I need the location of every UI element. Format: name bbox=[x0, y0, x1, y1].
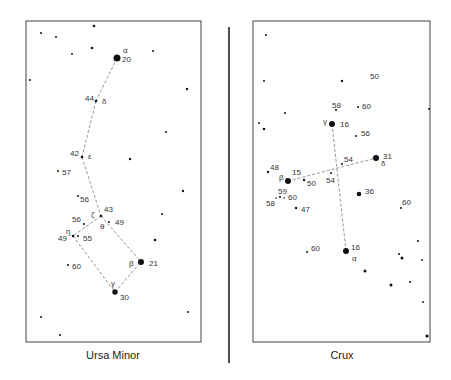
star-marker bbox=[129, 158, 131, 160]
star-magnitude-label: 49 bbox=[115, 218, 124, 227]
star-greek-letter-label: δ bbox=[102, 97, 107, 106]
star-marker bbox=[165, 131, 167, 133]
star-marker bbox=[263, 128, 266, 131]
star-magnitude-label: 44 bbox=[85, 94, 94, 103]
star-marker bbox=[67, 264, 69, 266]
star-greek-letter-label: ζ bbox=[91, 210, 95, 219]
star-marker bbox=[187, 311, 189, 313]
star-marker bbox=[341, 80, 343, 82]
star-marker bbox=[279, 196, 281, 198]
star-greek-letter-label: β bbox=[279, 173, 284, 182]
star-marker bbox=[55, 36, 57, 38]
star-magnitude-label: 16 bbox=[351, 243, 360, 252]
star-marker bbox=[57, 170, 59, 172]
star-marker bbox=[357, 106, 359, 108]
star-chart-diagram: 20α44δ42ε43ζ49θ49η55565621β30γ5760 Ursa … bbox=[0, 0, 451, 380]
asterism-line bbox=[115, 262, 141, 292]
star-marker bbox=[59, 334, 61, 336]
star-marker bbox=[83, 223, 85, 225]
star-greek-letter-label: α bbox=[123, 46, 128, 55]
crux-asterism-lines bbox=[288, 124, 376, 251]
star-magnitude-label: 21 bbox=[149, 259, 158, 268]
star-marker bbox=[72, 235, 75, 238]
star-marker bbox=[355, 135, 357, 137]
star-marker bbox=[421, 259, 423, 261]
star-marker bbox=[417, 240, 419, 242]
star-marker bbox=[267, 171, 269, 173]
star-greek-letter-label: γ bbox=[323, 117, 327, 126]
star-marker bbox=[285, 178, 291, 184]
star-magnitude-label: 50 bbox=[370, 72, 379, 81]
ursa-minor-stars: 20α44δ42ε43ζ49θ49η55565621β30γ5760 bbox=[29, 25, 189, 336]
star-marker bbox=[306, 251, 308, 253]
star-magnitude-label: 30 bbox=[120, 293, 129, 302]
star-marker bbox=[138, 259, 144, 265]
star-marker bbox=[425, 334, 428, 337]
star-magnitude-label: 60 bbox=[72, 262, 81, 271]
ursa-minor-panel: 20α44δ42ε43ζ49θ49η55565621β30γ5760 Ursa … bbox=[26, 21, 201, 361]
star-magnitude-label: 48 bbox=[270, 163, 279, 172]
crux-caption: Crux bbox=[330, 349, 354, 361]
star-greek-letter-label: θ bbox=[100, 222, 105, 231]
star-marker bbox=[330, 172, 332, 174]
star-magnitude-label: 59 bbox=[278, 187, 287, 196]
ursa-minor-asterism-lines bbox=[73, 58, 141, 292]
star-magnitude-label: 54 bbox=[344, 155, 353, 164]
star-magnitude-label: 60 bbox=[311, 244, 320, 253]
star-marker bbox=[91, 47, 94, 50]
asterism-line bbox=[96, 58, 117, 101]
star-marker bbox=[263, 80, 265, 82]
star-marker bbox=[341, 163, 343, 165]
star-magnitude-label: 56 bbox=[361, 129, 370, 138]
crux-stars: 16γ15β31δ16α3650586056545450485958604760… bbox=[258, 34, 430, 338]
star-marker bbox=[357, 192, 362, 197]
star-magnitude-label: 36 bbox=[365, 187, 374, 196]
star-magnitude-label: 16 bbox=[340, 120, 349, 129]
star-marker bbox=[114, 55, 121, 62]
star-marker bbox=[390, 284, 393, 287]
star-marker bbox=[152, 50, 154, 52]
star-marker bbox=[409, 281, 411, 283]
star-marker bbox=[284, 112, 286, 114]
star-marker bbox=[161, 213, 163, 215]
star-marker bbox=[343, 248, 349, 254]
star-marker bbox=[428, 108, 430, 110]
star-magnitude-label: 56 bbox=[80, 195, 89, 204]
crux-panel: 16γ15β31δ16α3650586056545450485958604760… bbox=[253, 21, 430, 361]
star-magnitude-label: 47 bbox=[301, 205, 310, 214]
star-marker bbox=[40, 32, 42, 34]
star-marker bbox=[258, 122, 260, 124]
star-marker bbox=[398, 253, 400, 255]
star-marker bbox=[77, 195, 79, 197]
star-greek-letter-label: α bbox=[352, 254, 357, 263]
star-marker bbox=[77, 235, 79, 237]
star-greek-letter-label: β bbox=[129, 259, 134, 268]
star-marker bbox=[95, 100, 98, 103]
star-magnitude-label: 56 bbox=[72, 215, 81, 224]
star-magnitude-label: 60 bbox=[362, 102, 371, 111]
star-marker bbox=[265, 34, 267, 36]
star-marker bbox=[182, 190, 184, 192]
star-marker bbox=[364, 270, 367, 273]
star-magnitude-label: 15 bbox=[292, 168, 301, 177]
ursa-minor-caption: Ursa Minor bbox=[86, 349, 140, 361]
star-marker bbox=[154, 239, 157, 242]
star-magnitude-label: 43 bbox=[104, 205, 113, 214]
star-marker bbox=[40, 316, 42, 318]
star-marker bbox=[100, 215, 103, 218]
star-magnitude-label: 57 bbox=[62, 168, 71, 177]
star-marker bbox=[303, 179, 305, 181]
star-marker bbox=[112, 289, 117, 294]
star-magnitude-label: 20 bbox=[122, 55, 131, 64]
star-greek-letter-label: δ bbox=[381, 159, 386, 168]
star-marker bbox=[401, 257, 404, 260]
star-marker bbox=[283, 197, 285, 199]
star-marker bbox=[81, 156, 84, 159]
star-greek-letter-label: γ bbox=[111, 279, 115, 288]
star-greek-letter-label: ε bbox=[88, 152, 92, 161]
star-marker bbox=[93, 25, 96, 28]
star-marker bbox=[373, 155, 379, 161]
star-magnitude-label: 54 bbox=[326, 176, 335, 185]
star-magnitude-label: 50 bbox=[307, 179, 316, 188]
star-greek-letter-label: η bbox=[66, 227, 70, 236]
